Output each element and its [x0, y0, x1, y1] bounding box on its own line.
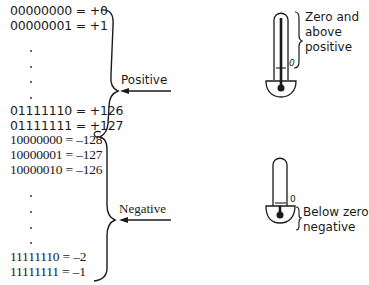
ellipsis-dot [30, 50, 32, 52]
binary-value-line: 01111111 = +127 [10, 119, 123, 133]
binary-value-line: 00000001 = +1 [10, 19, 108, 33]
binary-value-line: 10000001 = –127 [10, 148, 102, 162]
binary-value-line: 10000010 = –126 [10, 163, 102, 177]
positive-arrowhead [120, 88, 129, 94]
thermometer-top-brace [294, 12, 302, 68]
caption-line: positive [305, 40, 359, 55]
negative-arrowhead [119, 217, 128, 223]
thermometer-bottom-icon [266, 158, 295, 223]
ellipsis-dot [30, 66, 32, 68]
caption-line: negative [303, 220, 369, 235]
binary-value-line: 01111110 = +126 [10, 104, 123, 118]
ellipsis-dot [30, 81, 32, 83]
thermometer-top-icon [266, 13, 296, 97]
binary-value-line: 11111110 = –2 [10, 250, 86, 264]
ellipsis-dot [30, 242, 32, 244]
thermometer-bottom-caption: Below zero negative [303, 205, 369, 235]
thermometer-bottom-zero-mark: 0 [290, 194, 296, 204]
caption-line: above [305, 25, 359, 40]
binary-value-line: 10000000 = –128 [10, 133, 102, 147]
caption-line: Below zero [303, 205, 369, 220]
ellipsis-dot [30, 195, 32, 197]
ellipsis-dot [30, 97, 32, 99]
thermometer-bottom-brace [296, 207, 301, 230]
positive-label: Positive [121, 73, 167, 87]
negative-label: Negative [119, 201, 166, 217]
binary-value-line: 11111111 = –1 [10, 265, 86, 279]
caption-line: Zero and [305, 10, 359, 25]
ellipsis-dot [30, 227, 32, 229]
thermometer-top-zero-mark: 0 [289, 58, 295, 68]
ellipsis-dot [30, 211, 32, 213]
thermometer-top-caption: Zero and above positive [305, 10, 359, 55]
binary-value-line: 00000000 = +0 [10, 4, 108, 18]
